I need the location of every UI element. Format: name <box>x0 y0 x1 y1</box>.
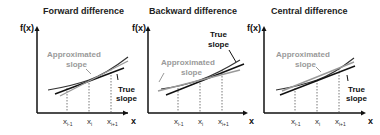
backward-difference-plot: f(x) Approximated slope True slope xi-1 … <box>128 0 252 135</box>
panel-forward-difference: Forward difference f(x) Approximated slo… <box>0 0 128 135</box>
x-axis-arrow-icon <box>361 111 366 116</box>
true-label: slope <box>346 94 367 103</box>
approx-label: Approximated <box>47 50 101 59</box>
true-label: True <box>348 85 365 94</box>
approx-slope-line <box>282 62 354 91</box>
x-axis-label: x <box>368 116 373 126</box>
x-axis-label: x <box>131 116 136 126</box>
x-axis-arrow-icon <box>243 111 248 116</box>
true-label: True <box>210 30 227 39</box>
true-slope-line <box>280 66 355 95</box>
panel-central-difference: Central difference Approximated slope Tr… <box>252 0 380 135</box>
svg-text:xi-1: xi-1 <box>291 117 301 127</box>
function-curve <box>48 57 128 90</box>
approx-label: Approximated <box>161 58 215 67</box>
central-difference-plot: Approximated slope True slope xi-1 xi xi… <box>252 0 380 135</box>
y-axis-arrow-icon <box>262 26 267 31</box>
approx-label: slope <box>295 60 316 69</box>
svg-text:xi+1: xi+1 <box>107 117 118 127</box>
svg-text:xi-1: xi-1 <box>174 117 184 127</box>
approx-label: Approximated <box>276 50 330 59</box>
y-axis-arrow-icon <box>146 26 151 31</box>
svg-text:xi+1: xi+1 <box>335 117 346 127</box>
svg-text:xi: xi <box>87 117 92 127</box>
svg-text:xi+1: xi+1 <box>218 117 229 127</box>
approx-label: slope <box>66 60 87 69</box>
svg-text:xi-1: xi-1 <box>63 117 73 127</box>
y-axis-arrow-icon <box>35 26 40 31</box>
svg-text:xi: xi <box>198 117 203 127</box>
svg-text:xi: xi <box>315 117 320 127</box>
y-axis-label: f(x) <box>20 23 34 33</box>
approx-label: slope <box>181 68 202 77</box>
forward-difference-plot: f(x) Approximated slope True slope xi-1 … <box>0 0 128 135</box>
true-label: slope <box>208 40 229 49</box>
panel-backward-difference: Backward difference f(x) Approximated sl… <box>128 0 252 135</box>
y-axis-label: f(x) <box>132 23 146 33</box>
